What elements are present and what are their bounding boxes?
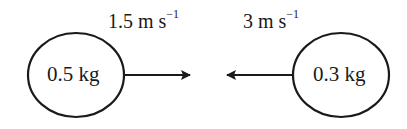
- mass-label-right: 0.3 kg: [313, 62, 366, 87]
- velocity-exponent-left: −1: [166, 7, 179, 21]
- mass-label-left: 0.5 kg: [47, 62, 100, 87]
- velocity-value-left: 1.5 m s: [108, 10, 166, 32]
- velocity-label-right: 3 m s−1: [243, 10, 299, 33]
- velocity-label-left: 1.5 m s−1: [108, 10, 179, 33]
- velocity-value-right: 3 m s: [243, 10, 286, 32]
- collision-diagram: 0.5 kg 0.3 kg 1.5 m s−1 3 m s−1: [0, 0, 407, 129]
- velocity-exponent-right: −1: [286, 7, 299, 21]
